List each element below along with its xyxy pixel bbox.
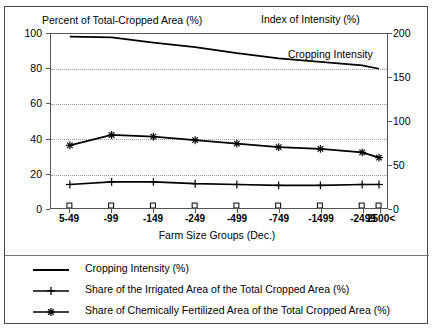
y-axis-tick-0: 0 [12,203,42,215]
legend-item-fertilized-area[interactable]: Share of Chemically Fertilized Area of t… [5,301,429,322]
series-line-irrigated-area [70,182,379,185]
y2-tickmark-200 [388,33,392,34]
legend-item-cropping-intensity[interactable]: Cropping Intensity (%) [5,259,429,280]
y2-axis-tick-200: 200 [393,27,427,39]
legend-label-cropping-intensity: Cropping Intensity (%) [85,262,189,274]
legend-key-irrigated-area [29,280,73,301]
y2-tickmark-50 [388,165,392,166]
y2-axis-tick-150: 150 [393,71,427,83]
legend-key-cropping-intensity [29,259,73,280]
chart-plot-region: Percent of Total-Cropped Area (%) Index … [5,7,429,243]
y-axis-tick-40: 40 [12,133,42,145]
legend-label-fertilized-area: Share of Chemically Fertilized Area of t… [85,304,390,316]
y2-tickmark-0 [388,209,392,210]
legend-label-irrigated-area: Share of the Irrigated Area of the Total… [85,283,349,295]
x-axis-title: Farm Size Groups (Dec.) [5,229,429,241]
chart-frame: Percent of Total-Cropped Area (%) Index … [4,6,428,324]
legend-divider [5,255,429,256]
left-axis-title: Percent of Total-Cropped Area (%) [42,14,202,26]
series-lines [51,34,387,208]
y2-axis-tick-100: 100 [393,115,427,127]
y-tickmark-0 [46,209,50,210]
y2-axis-tick-50: 50 [393,159,427,171]
series-markers-baseline [67,203,381,208]
y2-tickmark-100 [388,121,392,122]
series-line-fertilized-area [70,135,379,158]
y-axis-tick-20: 20 [12,168,42,180]
x-axis-label-8: 2500< [353,213,409,224]
right-axis-title: Index of Intensity (%) [261,13,360,25]
legend-key-fertilized-area [29,301,73,322]
chart-legend: Cropping Intensity (%) Share of the Irri… [5,259,429,323]
y-axis-tick-60: 60 [12,97,42,109]
legend-item-irrigated-area[interactable]: Share of the Irrigated Area of the Total… [5,280,429,301]
y2-tickmark-150 [388,77,392,78]
y-axis-tick-80: 80 [12,62,42,74]
annotation-cropping-intensity: Cropping Intensity [288,48,373,60]
y-axis-tick-100: 100 [12,27,42,39]
